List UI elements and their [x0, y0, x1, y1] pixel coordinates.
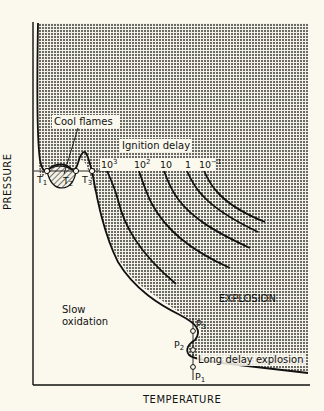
p3-marker — [191, 329, 196, 334]
ignition-delay-label: Ignition delay — [122, 140, 190, 151]
t3-marker — [89, 168, 94, 173]
slow-oxidation-line2: oxidation — [62, 316, 108, 328]
long-delay-explosion-label: Long delay explosion — [198, 354, 303, 365]
cool-flames-label: Cool flames — [54, 116, 113, 127]
p2-marker — [191, 348, 196, 353]
y-axis-label: PRESSURE — [2, 153, 13, 210]
t2-marker — [73, 168, 78, 173]
slow-oxidation-line1: Slow — [62, 304, 108, 316]
p2-label: P2 — [174, 339, 184, 352]
p1-label: P1 — [195, 371, 205, 384]
t1-marker — [44, 168, 49, 173]
explosion-label: EXPLOSION — [219, 293, 276, 304]
isoline-label-10: 10 — [160, 159, 172, 170]
slow-oxidation-label: Slow oxidation — [62, 304, 108, 328]
t1-label: T1 — [36, 174, 47, 187]
explosion-diagram: Cool flames Ignition delay 103 102 10 1 … — [0, 0, 324, 411]
isoline-label-1: 1 — [185, 159, 191, 170]
x-axis-label: TEMPERATURE — [143, 394, 221, 405]
p1-marker — [191, 365, 196, 370]
